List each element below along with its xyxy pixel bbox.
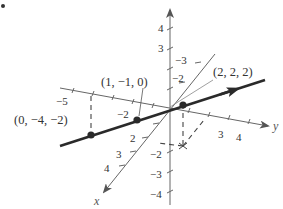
y-tick-3: 3 <box>218 128 224 140</box>
figure-bullet-icon <box>1 4 5 8</box>
x-tick-2: 2 <box>130 132 136 144</box>
y-tick-neg2: −2 <box>117 108 129 120</box>
z-tick-4: 4 <box>158 22 164 34</box>
point-label-0-neg4-neg2: (0, −4, −2) <box>14 113 68 127</box>
x-tick-neg2: −2 <box>172 72 184 84</box>
point-label-2-2-2: (2, 2, 2) <box>213 65 253 79</box>
point-1-neg1-0 <box>133 116 140 123</box>
3d-coordinate-diagram: 4 3 −2 −3 −4 −5 −2 3 4 y −3 −2 2 3 4 x <box>0 0 283 209</box>
leader-line <box>139 88 143 116</box>
x-tick-3: 3 <box>116 148 122 160</box>
point-2-2-2 <box>179 101 186 108</box>
point-label-1-neg1-0: (1, −1, 0) <box>101 75 148 89</box>
y-axis-label: y <box>272 119 279 133</box>
y-tick-4: 4 <box>236 131 242 143</box>
x-axis-label: x <box>93 194 100 208</box>
point-0-neg4-neg2 <box>87 131 94 138</box>
y-tick-neg5: −5 <box>56 95 68 107</box>
x-tick-4: 4 <box>104 162 110 174</box>
x-tick-neg3: −3 <box>175 54 187 66</box>
line-direction-arrow <box>220 90 234 95</box>
z-tick-neg2: −2 <box>150 148 162 160</box>
z-tick-3: 3 <box>158 42 164 54</box>
z-tick-neg3: −3 <box>150 168 162 180</box>
z-tick-neg4: −4 <box>150 188 162 200</box>
